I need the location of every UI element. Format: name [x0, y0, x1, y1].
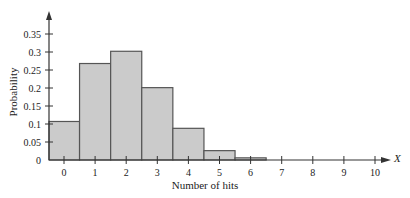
x-tick-label: 10 [370, 167, 380, 178]
y-tick-label: 0.3 [29, 47, 42, 58]
x-tick-label: 9 [341, 167, 346, 178]
x-tick-label: 2 [124, 167, 129, 178]
plot-area: 00.050.10.150.20.250.30.35012345678910 [0, 0, 410, 198]
histogram-bar [173, 128, 204, 160]
histogram-bar [142, 88, 173, 160]
x-tick-label: 4 [186, 167, 191, 178]
y-tick-label: 0.05 [24, 137, 42, 148]
x-tick-label: 8 [310, 167, 315, 178]
y-axis-label: Probability [7, 57, 19, 127]
x-axis-label: Number of hits [150, 179, 260, 191]
y-axis-arrow-icon [46, 11, 52, 20]
y-tick-label: 0.15 [24, 101, 42, 112]
x-axis-arrow-icon [381, 157, 391, 163]
x-tick-label: 7 [279, 167, 284, 178]
y-tick-label: 0.25 [24, 65, 42, 76]
x-tick-label: 6 [248, 167, 253, 178]
x-tick-label: 5 [217, 167, 222, 178]
x-axis-variable: X [394, 152, 401, 164]
x-tick-label: 1 [93, 167, 98, 178]
x-tick-label: 3 [155, 167, 160, 178]
y-tick-label: 0.2 [29, 83, 42, 94]
histogram-bar [49, 121, 80, 160]
histogram-bar [80, 64, 111, 160]
y-tick-label: 0 [36, 155, 41, 166]
histogram-bar [111, 51, 142, 160]
y-tick-label: 0.1 [29, 119, 42, 130]
y-tick-label: 0.35 [24, 29, 42, 40]
histogram-chart: 00.050.10.150.20.250.30.35012345678910 P… [0, 0, 410, 198]
x-tick-label: 0 [62, 167, 67, 178]
